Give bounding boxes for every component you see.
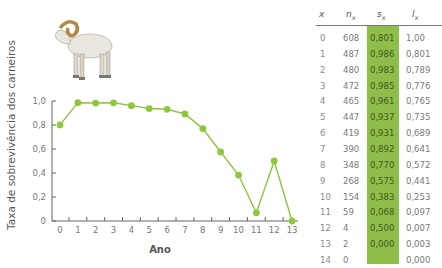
cell-nx: 2 (343, 239, 348, 249)
cell-sx: 0,770 (370, 160, 394, 170)
table-row: 101540,3830,253 (312, 192, 442, 207)
cell-sx: 0,383 (370, 192, 394, 202)
cell-sx: 0,500 (370, 223, 394, 233)
cell-sx: 0,937 (370, 112, 394, 122)
table-row: 24800,9830,789 (312, 65, 442, 80)
x-tick-label: 12 (269, 225, 280, 235)
cell-nx: 608 (343, 33, 359, 43)
y-tick-label: 0,6 (32, 144, 46, 154)
cell-x: 14 (320, 255, 331, 265)
x-tick-label: 2 (93, 225, 98, 235)
cell-sx: 0,575 (370, 176, 394, 186)
data-point (271, 158, 278, 165)
y-tick-label: 0,4 (32, 168, 46, 178)
x-tick-label: 9 (218, 225, 223, 235)
cell-lx: 0,441 (406, 176, 430, 186)
cell-nx: 59 (343, 207, 354, 217)
cell-nx: 465 (343, 96, 359, 106)
table-row: 64190,9310,689 (312, 128, 442, 143)
data-point (217, 149, 224, 156)
survival-rate-chart: 00,20,40,60,81,0012345678910111213 Taxa … (0, 0, 310, 268)
cell-lx: 0,765 (406, 96, 430, 106)
cell-x: 8 (320, 160, 325, 170)
cell-x: 5 (320, 112, 325, 122)
x-tick-label: 5 (147, 225, 152, 235)
cell-sx: 0,985 (370, 81, 394, 91)
cell-x: 7 (320, 144, 325, 154)
cell-nx: 0 (343, 255, 348, 265)
data-point (164, 106, 171, 113)
y-tick-label: 1,0 (32, 96, 46, 106)
cell-sx: 0,961 (370, 96, 394, 106)
table-row: 1400,000 (312, 255, 442, 268)
table-row: 73900,8920,641 (312, 144, 442, 159)
table-row: 83480,7700,572 (312, 160, 442, 175)
cell-sx: 0,892 (370, 144, 394, 154)
cell-sx: 0,986 (370, 49, 394, 59)
data-point (110, 99, 117, 106)
cell-sx: 0,801 (370, 33, 394, 43)
cell-lx: 0,097 (406, 207, 430, 217)
x-tick-label: 8 (200, 225, 205, 235)
table-row: 34720,9850,776 (312, 81, 442, 96)
cell-lx: 0,007 (406, 223, 430, 233)
cell-nx: 154 (343, 192, 359, 202)
cell-lx: 0,735 (406, 112, 430, 122)
cell-sx: 0,000 (370, 239, 394, 249)
cell-lx: 0,641 (406, 144, 430, 154)
y-tick-label: 0 (41, 216, 46, 226)
cell-lx: 0,801 (406, 49, 430, 59)
cell-lx: 0,000 (406, 255, 430, 265)
cell-sx: 0,931 (370, 128, 394, 138)
data-point (182, 111, 189, 118)
data-point (92, 100, 99, 107)
x-tick-label: 3 (111, 225, 116, 235)
cell-x: 0 (320, 33, 325, 43)
cell-lx: 0,776 (406, 81, 430, 91)
cell-x: 1 (320, 49, 325, 59)
cell-lx: 0,789 (406, 65, 430, 75)
header-x: x (319, 9, 324, 19)
cell-x: 10 (320, 192, 331, 202)
cell-x: 2 (320, 65, 325, 75)
header-sx: sx (377, 9, 386, 22)
cell-x: 12 (320, 223, 331, 233)
cell-lx: 0,572 (406, 160, 430, 170)
cell-lx: 0,689 (406, 128, 430, 138)
data-point (235, 172, 242, 179)
cell-nx: 419 (343, 128, 359, 138)
cell-x: 9 (320, 176, 325, 186)
cell-nx: 268 (343, 176, 359, 186)
x-axis-label: Ano (130, 244, 190, 255)
table-row: 54470,9370,735 (312, 112, 442, 127)
x-tick-label: 11 (251, 225, 262, 235)
data-point (199, 125, 206, 132)
cell-nx: 472 (343, 81, 359, 91)
cell-nx: 4 (343, 223, 348, 233)
cell-x: 11 (320, 207, 331, 217)
table-row: 1320,0000,003 (312, 239, 442, 254)
table-row: 06080,8011,00 (312, 33, 442, 48)
x-tick-label: 10 (233, 225, 244, 235)
x-tick-label: 1 (75, 225, 80, 235)
cell-lx: 1,00 (406, 33, 425, 43)
table-row: 14870,9860,801 (312, 49, 442, 64)
cell-nx: 348 (343, 160, 359, 170)
cell-nx: 447 (343, 112, 359, 122)
data-point (289, 218, 296, 225)
cell-x: 6 (320, 128, 325, 138)
data-point (74, 99, 81, 106)
cell-x: 13 (320, 239, 331, 249)
cell-lx: 0,253 (406, 192, 430, 202)
data-point (146, 105, 153, 112)
table-row: 1240,5000,007 (312, 223, 442, 238)
header-divider (316, 25, 442, 26)
cell-lx: 0,003 (406, 239, 430, 249)
table-row: 92680,5750,441 (312, 176, 442, 191)
data-point (253, 209, 260, 216)
line-plot: 00,20,40,60,81,0012345678910111213 (0, 0, 310, 268)
data-point (128, 102, 135, 109)
cell-nx: 390 (343, 144, 359, 154)
x-tick-label: 4 (129, 225, 134, 235)
data-point (57, 121, 64, 128)
